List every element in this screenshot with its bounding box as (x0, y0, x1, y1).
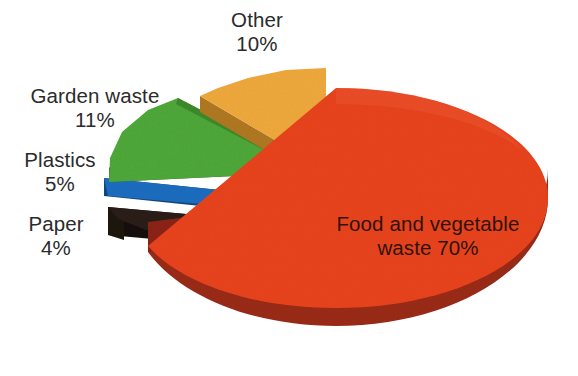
slice-label-food-waste-name: Food and vegetable (323, 212, 533, 236)
slice-label-garden-waste-name: Garden waste (14, 84, 176, 108)
pie-chart: Other 10% Garden waste 11% Plastics 5% P… (0, 0, 578, 376)
slice-label-garden-waste-value: 11% (14, 108, 176, 132)
slice-label-plastics-value: 5% (14, 172, 106, 196)
slice-label-plastics-name: Plastics (14, 148, 106, 172)
slice-label-food-waste-value: waste 70% (323, 236, 533, 260)
slice-label-other-value: 10% (196, 32, 318, 56)
slice-label-plastics: Plastics 5% (14, 148, 106, 196)
slice-label-paper: Paper 4% (14, 212, 98, 260)
slice-label-paper-name: Paper (14, 212, 98, 236)
slice-label-other: Other 10% (196, 8, 318, 56)
slice-label-paper-value: 4% (14, 236, 98, 260)
slice-label-food-waste: Food and vegetable waste 70% (323, 212, 533, 260)
slice-label-garden-waste: Garden waste 11% (14, 84, 176, 132)
slice-label-other-name: Other (196, 8, 318, 32)
